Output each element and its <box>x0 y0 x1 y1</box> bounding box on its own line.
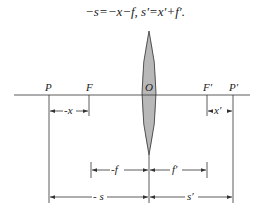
dim-f: -f <box>111 163 120 175</box>
dim-f-prime: f′ <box>172 163 178 175</box>
label-F-prime: F′ <box>202 81 213 93</box>
dim-x: -x <box>64 104 73 116</box>
dim-x-prime: x′ <box>213 104 222 116</box>
convex-lens <box>142 31 156 155</box>
dim-s: - s <box>93 190 104 202</box>
lens-diagram: P F O F′ P′ -x x′ -f f′ - s s′ <box>0 0 260 212</box>
label-P-prime: P′ <box>228 81 239 93</box>
label-O: O <box>145 81 153 93</box>
label-P: P <box>44 81 52 93</box>
label-F: F <box>85 81 93 93</box>
dim-s-prime: s′ <box>187 190 194 202</box>
